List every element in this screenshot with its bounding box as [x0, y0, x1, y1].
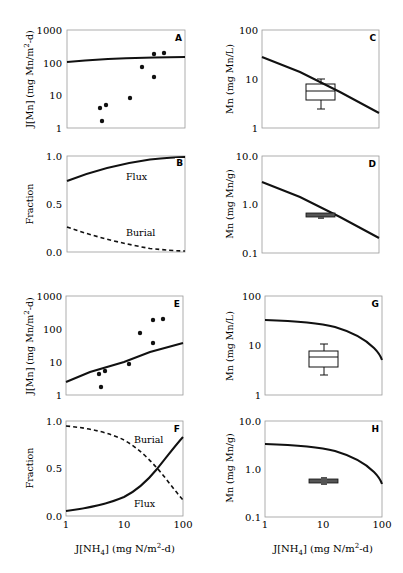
x-tick: 10	[317, 519, 330, 530]
y-tick: 10	[49, 90, 62, 101]
panel-label: D	[369, 159, 376, 169]
plot-frame	[66, 296, 183, 395]
model-line	[262, 182, 379, 238]
y-tick: 0.0	[46, 247, 62, 258]
x-tick: 1	[262, 519, 268, 530]
x-tick: 10	[118, 519, 131, 530]
model-line	[66, 343, 183, 382]
panel-a: 1000 100 10 1 J[Mn] (mg Mn/m2-d) A	[23, 25, 185, 134]
y-tick: 100	[43, 324, 62, 335]
flux-annotation: Flux	[126, 171, 148, 182]
x-axis-label: J[NH4] (mg N/m2-d)	[74, 542, 175, 557]
y-tick: 0.5	[46, 463, 62, 474]
burial-line	[66, 426, 183, 500]
y-tick: 1.0	[245, 464, 261, 475]
panel-label: F	[174, 424, 180, 434]
y-axis-label: J[Mn] (mg Mn/m2-d)	[23, 297, 35, 395]
y-tick: 1.0	[46, 416, 62, 427]
panel-d: 10.0 1.0 0.1 Mn (mg Mn/g) D	[224, 151, 379, 259]
panel-h: 10.0 1.0 0.1 1 10 100 Mn (mg Mn/g) H	[224, 416, 392, 530]
y-axis-label: Mn (mg Mn/L)	[224, 311, 235, 381]
panel-label: C	[369, 33, 376, 43]
model-line	[67, 57, 185, 62]
y-axis-label: Mn (mg Mn/g)	[224, 169, 235, 239]
y-axis-label: Mn (mg Mn/g)	[224, 433, 235, 503]
y-tick: 100	[239, 25, 258, 36]
box-plot	[309, 477, 338, 485]
y-tick: 1.0	[242, 199, 258, 210]
panel-g: 100 10 1 Mn (mg Mn/L) G	[224, 291, 382, 401]
burial-annotation: Burial	[126, 227, 155, 238]
y-tick: 10	[49, 357, 62, 368]
box-plot	[309, 344, 338, 375]
panel-f: 1.0 0.5 0.0 1 10 100 Fraction Burial Flu…	[24, 416, 193, 530]
plot-frame	[265, 421, 382, 517]
panel-label: H	[371, 424, 379, 434]
y-tick: 0.0	[46, 511, 62, 522]
plot-frame	[67, 30, 185, 128]
y-tick: 1	[56, 390, 62, 401]
figure: 1000 100 10 1 J[Mn] (mg Mn/m2-d) A 1.0 0…	[0, 0, 403, 573]
x-tick: 100	[173, 519, 192, 530]
y-tick: 1	[252, 123, 258, 134]
x-tick: 1	[63, 519, 69, 530]
panel-c: 100 10 1 Mn (mg Mn/L) C	[224, 25, 379, 134]
box-plot	[306, 79, 335, 109]
flux-annotation: Flux	[134, 498, 156, 509]
y-tick: 1.0	[46, 151, 62, 162]
x-axis-label: J[NH4] (mg N/m2-d)	[272, 542, 373, 557]
plot-frame	[66, 421, 183, 516]
panel-label: B	[176, 158, 183, 168]
model-line	[265, 320, 382, 360]
panel-label: E	[174, 299, 180, 309]
y-tick: 10.0	[239, 416, 261, 427]
plot-frame	[262, 156, 379, 253]
observations	[98, 51, 166, 123]
x-tick: 100	[372, 519, 391, 530]
panel-label: G	[372, 299, 379, 309]
y-axis-label: Mn (mg Mn/L)	[224, 44, 235, 114]
flux-line	[66, 437, 183, 511]
y-tick: 10	[248, 340, 261, 351]
y-axis-label: Fraction	[24, 448, 35, 489]
y-tick: 1	[255, 390, 261, 401]
y-tick: 1	[56, 123, 62, 134]
y-tick: 0.5	[46, 199, 62, 210]
panel-b: 1.0 0.5 0.0 Fraction Flux Burial B	[24, 151, 185, 258]
y-tick: 10.0	[236, 151, 258, 162]
y-tick: 100	[242, 291, 261, 302]
panel-label: A	[175, 33, 182, 43]
y-axis-label: J[Mn] (mg Mn/m2-d)	[23, 30, 35, 128]
box-plot	[306, 213, 335, 219]
burial-annotation: Burial	[134, 434, 163, 445]
y-axis-label: Fraction	[24, 184, 35, 225]
y-tick: 100	[43, 58, 62, 69]
panel-e: 1000 100 10 1 J[Mn] (mg Mn/m2-d) E	[23, 291, 183, 401]
y-tick: 0.1	[242, 248, 258, 259]
observations	[97, 317, 165, 389]
y-tick: 0.1	[245, 512, 261, 523]
y-tick: 10	[245, 74, 258, 85]
y-tick: 1000	[37, 291, 62, 302]
y-tick: 1000	[37, 25, 62, 36]
